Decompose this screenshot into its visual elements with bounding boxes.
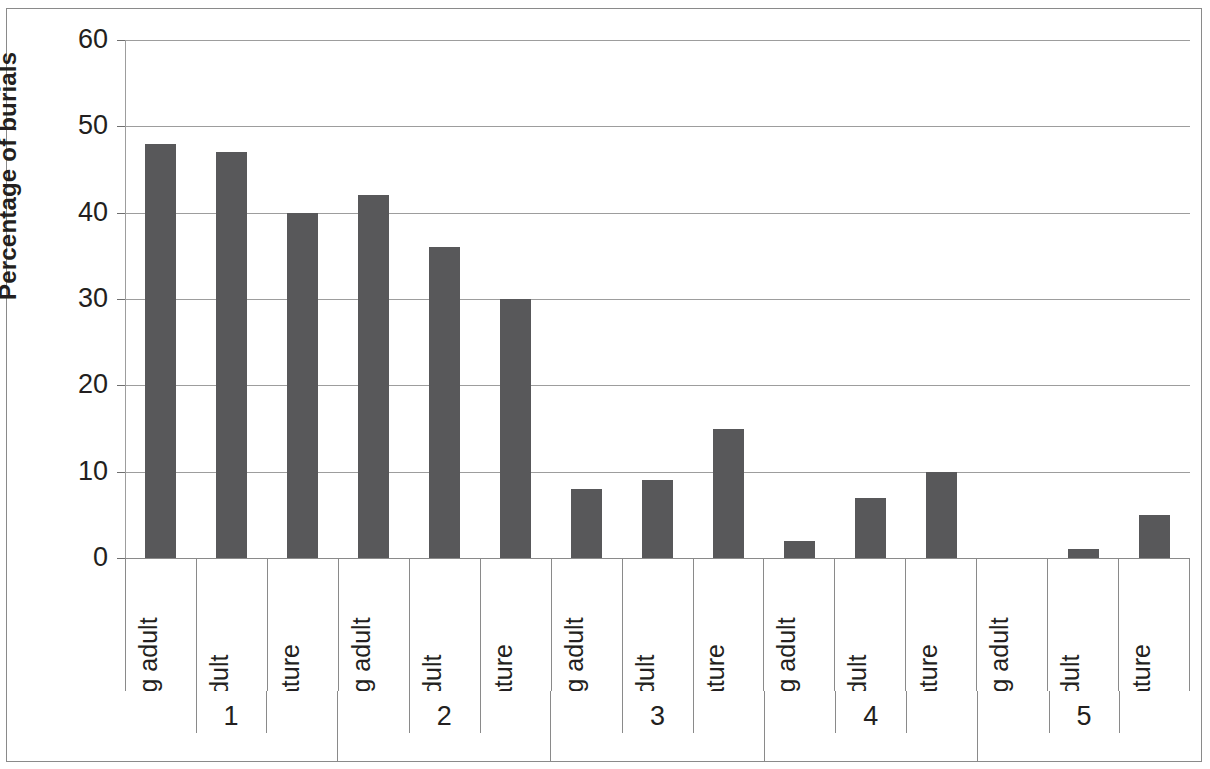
category-cell: Young adult <box>552 559 623 691</box>
bar-3-mature <box>713 429 744 559</box>
y-tick-label-30: 30 <box>40 285 108 312</box>
category-cell: Mature <box>481 559 552 691</box>
category-cell: Young adult <box>764 559 835 691</box>
bar-3-adult <box>642 480 673 558</box>
category-label: Adult <box>845 655 870 691</box>
group-cell-4: 4 <box>765 691 978 761</box>
y-tick-label-60: 60 <box>40 26 108 53</box>
bar-4-adult <box>855 498 886 558</box>
category-cell: Adult <box>623 559 694 691</box>
group-subtick <box>266 691 267 733</box>
category-label: Young adult <box>562 617 587 691</box>
y-tick-mark-30 <box>117 299 125 300</box>
category-cell: Mature <box>268 559 339 691</box>
bar-2-adult <box>429 247 460 558</box>
category-label: Adult <box>1058 655 1083 691</box>
group-subtick <box>1049 691 1050 733</box>
group-number-label: 1 <box>224 703 239 730</box>
bar-3-young-adult <box>571 489 602 558</box>
category-label: Mature <box>1129 644 1154 691</box>
group-cell-5: 5 <box>978 691 1190 761</box>
category-cell: Mature <box>694 559 765 691</box>
category-cell: Young adult <box>339 559 410 691</box>
category-label: Young adult <box>987 617 1012 691</box>
chart-page: Percentage of burials 6050403020100 Youn… <box>0 0 1210 769</box>
group-number-label: 5 <box>1076 703 1091 730</box>
category-cell: Adult <box>410 559 481 691</box>
gridline-60 <box>125 40 1190 41</box>
category-label: Mature <box>703 644 728 691</box>
bar-4-young-adult <box>784 541 815 558</box>
category-label: Mature <box>491 644 516 691</box>
category-cell: Mature <box>1119 559 1190 691</box>
y-tick-label-0: 0 <box>40 544 108 571</box>
bar-2-mature <box>500 299 531 558</box>
group-subtick <box>693 691 694 733</box>
y-tick-label-20: 20 <box>40 371 108 398</box>
group-subtick <box>480 691 481 733</box>
group-cell-2: 2 <box>338 691 551 761</box>
category-label-row: Young adultAdultMatureYoung adultAdultMa… <box>125 558 1190 691</box>
group-cell-1: 1 <box>125 691 338 761</box>
y-axis-title: Percentage of burials <box>0 52 22 300</box>
category-cell: Young adult <box>126 559 197 691</box>
group-subtick <box>196 691 197 733</box>
group-subtick <box>1119 691 1120 733</box>
bar-1-mature <box>287 213 318 558</box>
gridline-30 <box>125 299 1190 300</box>
category-label: Young adult <box>349 617 374 691</box>
category-cell: Young adult <box>977 559 1048 691</box>
group-number-label: 3 <box>650 703 665 730</box>
category-label: Mature <box>278 644 303 691</box>
plot-area <box>125 40 1190 558</box>
group-subtick <box>906 691 907 733</box>
group-subtick <box>622 691 623 733</box>
y-tick-label-50: 50 <box>40 112 108 139</box>
category-label: Young adult <box>136 617 161 691</box>
y-tick-mark-20 <box>117 385 125 386</box>
category-label: Adult <box>633 655 658 691</box>
group-number-label: 4 <box>863 703 878 730</box>
bar-1-adult <box>216 152 247 558</box>
gridline-40 <box>125 213 1190 214</box>
category-cell: Adult <box>1048 559 1119 691</box>
group-label-row: 12345 <box>125 691 1190 761</box>
bar-1-young-adult <box>145 144 176 558</box>
category-label: Mature <box>916 644 941 691</box>
group-number-label: 2 <box>437 703 452 730</box>
y-tick-mark-60 <box>117 40 125 41</box>
category-cell: Adult <box>835 559 906 691</box>
y-tick-mark-10 <box>117 472 125 473</box>
y-tick-label-10: 10 <box>40 458 108 485</box>
category-cell: Mature <box>906 559 977 691</box>
y-tick-mark-0 <box>117 558 125 559</box>
bar-5-adult <box>1068 549 1099 558</box>
y-tick-label-40: 40 <box>40 199 108 226</box>
group-subtick <box>409 691 410 733</box>
group-cell-3: 3 <box>551 691 764 761</box>
category-cell: Adult <box>197 559 268 691</box>
bar-2-young-adult <box>358 195 389 558</box>
category-label: Young adult <box>774 617 799 691</box>
y-tick-mark-50 <box>117 126 125 127</box>
bar-4-mature <box>926 472 957 558</box>
gridline-50 <box>125 126 1190 127</box>
bar-5-mature <box>1139 515 1170 558</box>
gridline-20 <box>125 385 1190 386</box>
group-subtick <box>835 691 836 733</box>
gridline-10 <box>125 472 1190 473</box>
category-label: Adult <box>420 655 445 691</box>
y-tick-mark-40 <box>117 213 125 214</box>
category-label: Adult <box>207 655 232 691</box>
